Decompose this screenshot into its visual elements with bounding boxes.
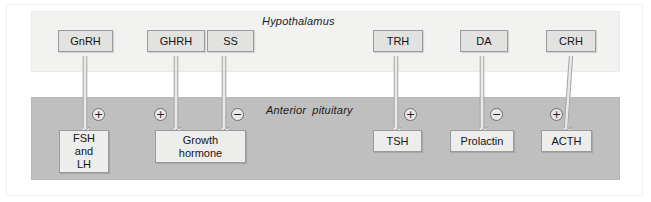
hormone-box-tsh-label: TSH [387,135,409,148]
hormone-box-acth[interactable]: ACTH [541,130,592,152]
effect-sign-gnrh-fsh-lh: + [92,108,105,121]
hormone-box-fsh-lh[interactable]: FSH and LH [59,130,109,173]
hormone-box-da-label: DA [476,35,491,48]
hypothalamus-label: Hypothalamus [262,15,335,27]
hormone-box-fsh-lh-label: FSH and LH [73,132,95,171]
hormone-box-ss[interactable]: SS [207,30,254,52]
hormone-box-crh-label: CRH [559,35,583,48]
effect-sign-trh-tsh: + [404,108,417,121]
hormone-box-fsh-lh-line-3: LH [73,158,95,171]
hormone-box-ghrh-label: GHRH [160,35,192,48]
hormone-box-prolactin[interactable]: Prolactin [450,130,514,152]
hormone-box-acth-label: ACTH [552,135,582,148]
hormone-box-growth-hormone[interactable]: Growth hormone [155,130,246,163]
hormone-box-trh-label: TRH [387,35,410,48]
effect-sign-ss-growth-hormone: − [231,108,244,121]
effect-sign-da-prolactin: − [490,108,503,121]
hormone-box-trh[interactable]: TRH [373,30,423,52]
hormone-box-ss-label: SS [223,35,238,48]
hormone-axis-diagram: Hypothalamus Anterior pituitary [0,0,651,202]
hormone-box-growth-hormone-line-1: Growth [179,134,222,147]
hormone-box-fsh-lh-line-1: FSH [73,132,95,145]
hormone-box-gnrh[interactable]: GnRH [58,30,113,52]
hormone-box-prolactin-label: Prolactin [461,135,504,148]
hormone-box-da[interactable]: DA [460,30,508,52]
effect-sign-ghrh-growth-hormone: + [154,108,167,121]
hormone-box-growth-hormone-label: Growth hormone [179,134,222,160]
hormone-box-gnrh-label: GnRH [70,35,101,48]
hormone-box-crh[interactable]: CRH [546,30,596,52]
anterior-pituitary-label: Anterior pituitary [266,104,353,116]
hormone-box-growth-hormone-line-2: hormone [179,147,222,160]
hormone-box-ghrh[interactable]: GHRH [147,30,205,52]
hormone-box-fsh-lh-line-2: and [73,145,95,158]
effect-sign-crh-acth: + [550,108,563,121]
hormone-box-tsh[interactable]: TSH [373,130,422,152]
